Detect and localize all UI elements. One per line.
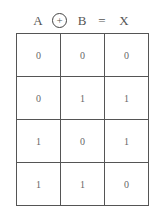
cell-a: 1 [17, 163, 61, 206]
table-row: 0 1 1 [17, 77, 149, 120]
cell-b: 1 [61, 77, 105, 120]
equals-sign: = [94, 11, 110, 31]
cell-x: 0 [105, 163, 149, 206]
cell-x: 1 [105, 120, 149, 163]
result-x-label: X [116, 11, 132, 31]
cell-a: 0 [17, 34, 61, 77]
table-row: 0 0 0 [17, 34, 149, 77]
cell-x: 0 [105, 34, 149, 77]
xor-expression-header: A + B = X [0, 11, 157, 31]
cell-x: 1 [105, 77, 149, 120]
cell-a: 1 [17, 120, 61, 163]
xor-truth-table: 0 0 0 0 1 1 1 0 1 1 1 0 [16, 33, 149, 206]
table-row: 1 1 0 [17, 163, 149, 206]
xor-circled-plus-icon: + [52, 13, 67, 28]
operand-b-label: B [74, 11, 90, 31]
operand-a-label: A [30, 11, 46, 31]
xor-plus-glyph: + [56, 15, 62, 26]
cell-a: 0 [17, 77, 61, 120]
cell-b: 0 [61, 34, 105, 77]
table-row: 1 0 1 [17, 120, 149, 163]
cell-b: 1 [61, 163, 105, 206]
cell-b: 0 [61, 120, 105, 163]
